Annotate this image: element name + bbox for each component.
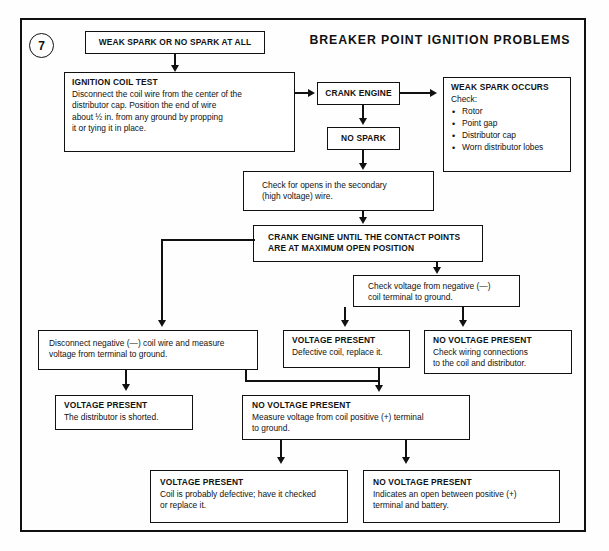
arrowhead-crank-engine-to-no-spark xyxy=(359,118,367,125)
node-no-voltage-check-wiring-line2: to the coil and distributor. xyxy=(433,358,565,369)
node-no-spark[interactable]: NO SPARK xyxy=(327,127,400,150)
node-ignition-coil-test-line4: it or tying it in place. xyxy=(72,123,288,134)
node-voltage-present-defective-coil[interactable]: VOLTAGE PRESENT Defective coil, replace … xyxy=(283,330,410,368)
arrowhead-check-opens-to-crank-max xyxy=(359,217,367,224)
arrowhead-start-to-coil-test xyxy=(171,65,179,72)
node-crank-until-max-open[interactable]: CRANK ENGINE UNTIL THE CONTACT POINTS AR… xyxy=(253,225,483,262)
node-voltage-present-coil-defective-line2: or replace it. xyxy=(160,500,341,511)
node-voltage-present-coil-defective-line1: Coil is probably defective; have it chec… xyxy=(160,489,341,500)
list-item-distributor-cap: Distributor cap xyxy=(451,130,564,142)
list-item-point-gap: Point gap xyxy=(451,118,564,130)
list-item-worn-distributor-lobes: Worn distributor lobes xyxy=(451,142,564,154)
page-title: BREAKER POINT IGNITION PROBLEMS xyxy=(300,33,580,47)
edge-crank-max-to-disconnect-horizontal xyxy=(161,239,255,241)
arrowhead-coil-test-to-crank-engine xyxy=(308,89,315,97)
edge-check-voltage-to-voltage-present xyxy=(344,307,346,321)
edge-measure-positive-to-voltage-present xyxy=(280,440,282,458)
arrowhead-check-voltage-to-no-voltage xyxy=(459,320,467,327)
node-ignition-coil-test-heading: IGNITION COIL TEST xyxy=(72,77,288,88)
node-voltage-present-coil-defective[interactable]: VOLTAGE PRESENT Coil is probably defecti… xyxy=(150,470,348,523)
edge-measure-positive-to-no-voltage xyxy=(405,440,407,458)
step-number-badge: 7 xyxy=(29,33,54,58)
arrowhead-no-spark-to-check-opens xyxy=(359,163,367,170)
node-no-voltage-measure-positive-line1: Measure voltage from coil positive (+) t… xyxy=(252,412,463,423)
edge-check-voltage-to-no-voltage xyxy=(462,307,464,321)
node-no-spark-heading: NO SPARK xyxy=(341,133,386,144)
node-voltage-present-shorted-heading: VOLTAGE PRESENT xyxy=(64,400,186,411)
flowchart-page: 7 BREAKER POINT IGNITION PROBLEMS WEAK S… xyxy=(0,0,609,551)
arrowhead-to-no-voltage-measure-positive xyxy=(375,385,383,392)
node-no-voltage-measure-positive-line2: to ground. xyxy=(252,423,463,434)
node-ignition-coil-test[interactable]: IGNITION COIL TEST Disconnect the coil w… xyxy=(64,72,295,152)
node-check-opens-line2: (high voltage) wire. xyxy=(262,191,427,202)
node-ignition-coil-test-line2: distributor cap. Position the end of wir… xyxy=(72,100,288,111)
arrowhead-check-voltage-to-voltage-present xyxy=(341,320,349,327)
node-no-voltage-measure-positive-heading: NO VOLTAGE PRESENT xyxy=(252,400,463,411)
node-voltage-present-shorted-body: The distributor is shorted. xyxy=(64,412,186,423)
node-weak-spark-occurs-heading: WEAK SPARK OCCURS xyxy=(451,82,564,93)
edge-voltage-present-to-no-voltage-vertical xyxy=(378,368,380,386)
edge-disconnect-to-no-voltage-horizontal xyxy=(245,380,380,382)
edge-crank-engine-to-no-spark xyxy=(362,105,364,119)
node-start[interactable]: WEAK SPARK OR NO SPARK AT ALL xyxy=(85,31,265,54)
weak-spark-check-list: Rotor Point gap Distributor cap Worn dis… xyxy=(451,106,564,154)
node-no-voltage-open-battery-line1: Indicates an open between positive (+) xyxy=(373,489,553,500)
node-ignition-coil-test-line3: about ½ in. from any ground by propping xyxy=(72,112,288,123)
edge-disconnect-to-voltage-present-shorted xyxy=(125,370,127,385)
arrowhead-crank-max-to-disconnect xyxy=(158,320,166,327)
node-check-opens-line1: Check for opens in the secondary xyxy=(262,180,427,191)
node-weak-spark-occurs[interactable]: WEAK SPARK OCCURS Check: Rotor Point gap… xyxy=(443,77,571,172)
edge-crank-max-to-disconnect-vertical xyxy=(161,239,163,321)
arrowhead-measure-positive-to-no-voltage xyxy=(402,457,410,464)
arrowhead-disconnect-to-voltage-present-shorted xyxy=(122,384,130,391)
node-disconnect-negative-line2: voltage from terminal to ground. xyxy=(49,349,251,360)
node-ignition-coil-test-line1: Disconnect the coil wire from the center… xyxy=(72,89,288,100)
arrowhead-crank-engine-to-weak-spark xyxy=(430,89,437,97)
node-crank-until-max-open-line2: ARE AT MAXIMUM OPEN POSITION xyxy=(268,243,476,254)
node-voltage-present-coil-defective-heading: VOLTAGE PRESENT xyxy=(160,477,341,488)
node-no-voltage-open-battery-line2: terminal and battery. xyxy=(373,500,553,511)
node-no-voltage-check-wiring[interactable]: NO VOLTAGE PRESENT Check wiring connecti… xyxy=(424,330,572,374)
arrowhead-crank-max-to-check-voltage xyxy=(433,267,441,274)
node-no-voltage-check-wiring-line1: Check wiring connections xyxy=(433,347,565,358)
edge-no-spark-to-check-opens xyxy=(362,150,364,164)
node-start-heading: WEAK SPARK OR NO SPARK AT ALL xyxy=(99,37,252,48)
node-check-voltage-negative[interactable]: Check voltage from negative (—) coil ter… xyxy=(353,275,520,307)
node-check-voltage-negative-line2: coil terminal to ground. xyxy=(368,292,513,303)
node-crank-engine[interactable]: CRANK ENGINE xyxy=(317,82,400,105)
node-crank-engine-heading: CRANK ENGINE xyxy=(325,88,391,99)
node-check-opens-secondary[interactable]: Check for opens in the secondary (high v… xyxy=(243,171,434,211)
edge-coil-test-to-crank-engine xyxy=(295,92,309,94)
edge-crank-engine-to-weak-spark xyxy=(400,92,431,94)
node-no-voltage-open-battery-heading: NO VOLTAGE PRESENT xyxy=(373,477,553,488)
arrowhead-measure-positive-to-voltage-present xyxy=(277,457,285,464)
node-check-voltage-negative-line1: Check voltage from negative (—) xyxy=(368,281,513,292)
node-disconnect-negative-line1: Disconnect negative (—) coil wire and me… xyxy=(49,338,251,349)
node-no-voltage-check-wiring-heading: NO VOLTAGE PRESENT xyxy=(433,335,565,346)
node-voltage-present-defective-coil-body: Defective coil, replace it. xyxy=(292,347,403,358)
node-weak-spark-occurs-body: Check: xyxy=(451,94,564,105)
node-disconnect-negative[interactable]: Disconnect negative (—) coil wire and me… xyxy=(38,330,258,370)
node-no-voltage-measure-positive[interactable]: NO VOLTAGE PRESENT Measure voltage from … xyxy=(242,395,470,440)
node-voltage-present-defective-coil-heading: VOLTAGE PRESENT xyxy=(292,335,403,346)
list-item-rotor: Rotor xyxy=(451,106,564,118)
node-crank-until-max-open-line1: CRANK ENGINE UNTIL THE CONTACT POINTS xyxy=(268,232,476,243)
node-no-voltage-open-battery[interactable]: NO VOLTAGE PRESENT Indicates an open bet… xyxy=(363,470,560,523)
node-voltage-present-shorted[interactable]: VOLTAGE PRESENT The distributor is short… xyxy=(55,395,193,430)
